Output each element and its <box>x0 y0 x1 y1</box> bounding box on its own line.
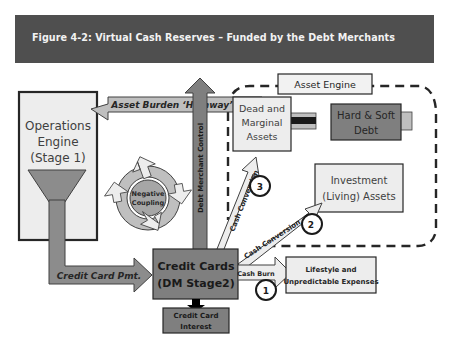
dead-assets-line1: Dead and <box>239 103 285 114</box>
asset-burden-highway-label: Asset Burden ‘Highway’ <box>110 100 233 110</box>
credit-card-interest-node: Credit Card Interest <box>163 308 229 333</box>
credit-cards-line1: Credit Cards <box>157 260 234 273</box>
dead-assets-line2: Marginal <box>242 117 283 128</box>
marker-3-label: 3 <box>257 182 263 192</box>
diagram-canvas: Asset Engine Operations Engine (Stage 1)… <box>0 0 452 352</box>
dead-assets-line3: Assets <box>247 131 278 142</box>
cash-conversion-3-arrow: Cash Conversion <box>215 157 260 257</box>
credit-card-interest-line2: Interest <box>180 323 212 331</box>
operations-engine-line1: Operations <box>25 119 91 133</box>
marker-1: 1 <box>256 280 276 300</box>
investment-assets-node: Investment (Living) Assets <box>315 164 403 212</box>
cash-burn-label: Cash Burn <box>237 270 275 278</box>
lifestyle-line1: Lifestyle and <box>305 266 356 274</box>
credit-cards-node: Credit Cards (DM Stage2) <box>153 249 238 299</box>
lifestyle-line2: Unpredictable Expenses <box>283 278 378 286</box>
asset-engine-label-box: Asset Engine <box>278 74 372 94</box>
negative-coupling-line2: Coupling <box>132 199 165 207</box>
credit-card-pmt-label: Credit Card Pmt. <box>57 271 142 281</box>
cash-conversion-2-label: Cash Conversion <box>243 218 302 260</box>
hard-soft-debt-line1: Hard & Soft <box>337 110 395 121</box>
marker-3: 3 <box>250 176 270 196</box>
hard-soft-debt-line2: Debt <box>354 125 378 136</box>
hard-soft-debt-node: Hard & Soft Debt <box>331 104 401 140</box>
investment-assets-line1: Investment <box>331 175 388 186</box>
credit-card-interest-line1: Credit Card <box>174 312 219 320</box>
negative-coupling-line1: Negative <box>132 190 165 198</box>
operations-engine-line3: (Stage 1) <box>30 151 86 165</box>
investment-assets-line2: (Living) Assets <box>322 191 395 202</box>
asset-engine-label: Asset Engine <box>294 79 356 90</box>
debt-merchant-control-label: Debt Merchant Control <box>197 123 205 213</box>
operations-engine-line2: Engine <box>37 135 78 149</box>
credit-cards-line2: (DM Stage2) <box>157 277 235 290</box>
dead-marginal-assets-node: Dead and Marginal Assets <box>233 97 291 151</box>
marker-1-label: 1 <box>263 286 269 296</box>
marker-2: 2 <box>302 214 322 234</box>
marker-2-label: 2 <box>308 220 314 230</box>
lifestyle-expenses-node: Lifestyle and Unpredictable Expenses <box>283 257 378 293</box>
negative-coupling-cycle: Negative Coupling <box>102 153 193 237</box>
